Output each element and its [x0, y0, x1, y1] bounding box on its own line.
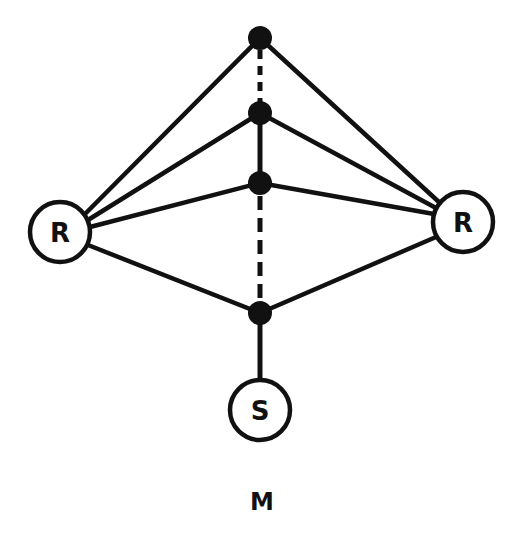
dot-node-4 — [248, 301, 272, 325]
label-s: S — [251, 396, 270, 426]
edges-left — [85, 38, 260, 313]
edges-right — [260, 38, 440, 313]
dot-node-1 — [248, 26, 272, 50]
label-r-right: R — [453, 208, 473, 238]
edge-rleft-d4 — [88, 245, 260, 313]
edge-rright-d2 — [260, 113, 436, 208]
network-diagram: R R S M — [0, 0, 517, 536]
edge-rright-d1 — [260, 38, 440, 203]
label-r-left: R — [50, 218, 70, 248]
edge-rright-d4 — [260, 237, 436, 313]
edge-rright-d3 — [260, 183, 434, 214]
diagram-caption: M — [250, 488, 274, 516]
dot-node-3 — [248, 171, 272, 195]
dot-node-2 — [248, 101, 272, 125]
